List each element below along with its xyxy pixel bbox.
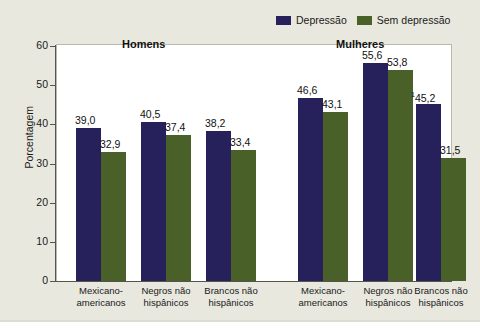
x-category-label-2: Brancos nãohispânicos xyxy=(191,285,271,308)
value-label-sem-3: 43,1 xyxy=(322,99,342,110)
bar-dep-4 xyxy=(363,63,388,281)
legend-item-sem-depressao: Sem depressão xyxy=(357,15,451,26)
x-category-line1: Brancos não xyxy=(191,285,271,297)
bar-sem-4 xyxy=(388,70,413,281)
bar-dep-2 xyxy=(206,131,231,281)
bar-sem-5 xyxy=(441,158,466,281)
x-category-label-5: Brancos nãohispânicos xyxy=(401,285,480,308)
value-label-dep-4: 55,6 xyxy=(362,50,382,61)
legend-label-depressao: Depressão xyxy=(296,15,347,26)
value-label-dep-0: 39,0 xyxy=(75,115,95,126)
y-axis-title: Porcentagem xyxy=(24,92,35,182)
value-label-dep-1: 40,5 xyxy=(140,109,160,120)
value-label-dep-3: 46,6 xyxy=(297,85,317,96)
legend-swatch-depressao xyxy=(276,16,291,25)
y-axis-tick-label: 60 xyxy=(22,40,48,51)
y-axis-tick-label: 50 xyxy=(22,79,48,90)
value-label-dep-5: 145,2 xyxy=(411,91,435,103)
bar-dep-3 xyxy=(298,98,323,281)
y-axis-tick-label: 20 xyxy=(22,197,48,208)
y-axis-tick-label: 40 xyxy=(22,118,48,129)
value-label-sem-5: 31,5 xyxy=(440,145,460,156)
footnote-marker: 1 xyxy=(411,91,415,98)
chart-legend: Depressão Sem depressão xyxy=(276,15,450,26)
legend-label-sem-depressao: Sem depressão xyxy=(377,15,451,26)
value-label-dep-2: 38,2 xyxy=(205,118,225,129)
value-label-sem-1: 37,4 xyxy=(165,122,185,133)
figure-root: Depressão Sem depressão Porcentagem 0102… xyxy=(0,0,480,334)
x-axis-line xyxy=(55,281,452,282)
legend-item-depressao: Depressão xyxy=(276,15,347,26)
bar-dep-1 xyxy=(141,122,166,281)
bar-sem-3 xyxy=(323,112,348,281)
x-category-line2: hispânicos xyxy=(191,297,271,309)
y-axis-tick-label: 30 xyxy=(22,158,48,169)
y-axis-tick-label: 0 xyxy=(22,275,48,286)
x-category-line1: Brancos não xyxy=(401,285,480,297)
y-axis-tick-label: 10 xyxy=(22,236,48,247)
value-label-sem-4: 53,8 xyxy=(387,57,407,68)
bar-sem-2 xyxy=(231,150,256,281)
value-label-sem-0: 32,9 xyxy=(100,139,120,150)
bar-dep-0 xyxy=(76,128,101,281)
bar-sem-1 xyxy=(166,135,191,281)
x-category-line2: hispânicos xyxy=(401,297,480,309)
legend-swatch-sem-depressao xyxy=(357,16,372,25)
bar-sem-0 xyxy=(101,152,126,281)
bar-dep-5 xyxy=(416,104,441,281)
y-axis-tick xyxy=(50,281,56,282)
bars-layer xyxy=(56,44,452,281)
value-label-sem-2: 33,4 xyxy=(230,137,250,148)
